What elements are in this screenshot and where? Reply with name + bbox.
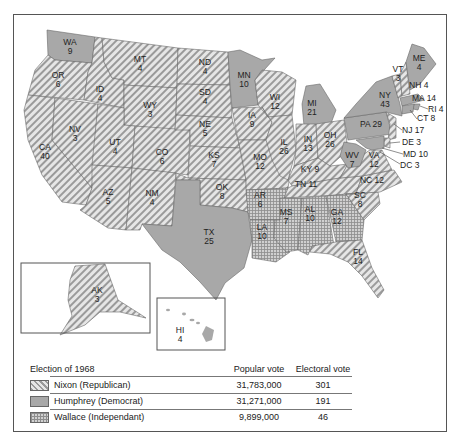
electoral-votes-OK: 8: [220, 191, 225, 201]
electoral-votes-WA: 9: [68, 46, 73, 56]
legend-row-humphrey: Humphrey (Democrat) 31,271,000 191: [30, 393, 352, 409]
electoral-votes-TX: 25: [204, 236, 214, 246]
state-label-DE: DE 3: [402, 137, 421, 147]
candidate-name: Nixon (Republican): [54, 380, 131, 390]
state-AK: [60, 264, 146, 335]
electoral-votes-WV: 7: [350, 159, 355, 169]
electoral-vote: 46: [294, 412, 352, 422]
electoral-votes-AL: 10: [305, 213, 315, 223]
electoral-votes-SC: 8: [358, 199, 363, 209]
popular-vote: 9,899,000: [224, 412, 294, 422]
humphrey-pattern-swatch: [30, 396, 49, 407]
hawaii-inset: [157, 298, 225, 350]
electoral-votes-KS: 7: [212, 159, 217, 169]
electoral-votes-IA: 9: [250, 119, 255, 129]
legend-title: Election of 1968: [30, 364, 224, 374]
electoral-votes-IL: 26: [279, 146, 289, 156]
electoral-votes-VA: 12: [369, 159, 379, 169]
electoral-votes-MI: 21: [307, 107, 317, 117]
nixon-pattern-swatch: [30, 380, 49, 391]
electoral-votes-HI: 4: [178, 334, 183, 344]
legend: Election of 1968 Popular vote Electoral …: [30, 360, 352, 425]
electoral-votes-AR: 6: [258, 199, 263, 209]
state-FL: [310, 240, 384, 298]
electoral-votes-SD: 4: [203, 96, 208, 106]
state-label-NC: NC 12: [360, 175, 384, 185]
electoral-votes-CA: 40: [40, 151, 50, 161]
electoral-votes-WI: 12: [270, 101, 280, 111]
electoral-vote: 301: [294, 380, 352, 390]
electoral-votes-AZ: 5: [106, 196, 111, 206]
electoral-votes-FL: 14: [353, 256, 363, 266]
candidate-name: Wallace (Independant): [54, 412, 144, 422]
electoral-votes-MN: 10: [239, 79, 249, 89]
state-label-PA: PA 29: [360, 119, 382, 129]
state-label-DC: DC 3: [400, 160, 420, 170]
electoral-votes-ID: 4: [98, 93, 103, 103]
electoral-votes-WY: 3: [148, 109, 153, 119]
electoral-votes-GA: 12: [332, 216, 342, 226]
electoral-votes-NY: 43: [380, 99, 390, 109]
state-NY: [344, 76, 402, 118]
popular-vote: 31,271,000: [224, 396, 294, 406]
electoral-votes-CO: 6: [160, 156, 165, 166]
state-label-TN: TN 11: [295, 179, 318, 189]
electoral-votes-NE: 5: [203, 128, 208, 138]
electoral-votes-OH: 26: [325, 139, 335, 149]
electoral-votes-NV: 3: [73, 133, 78, 143]
electoral-votes-MO: 12: [255, 161, 265, 171]
electoral-votes-NM: 4: [150, 197, 155, 207]
wallace-pattern-swatch: [30, 412, 49, 423]
legend-col-electoral: Electoral vote: [294, 364, 352, 374]
electoral-votes-LA: 10: [257, 231, 267, 241]
candidate-name: Humphrey (Democrat): [54, 396, 143, 406]
electoral-votes-UT: 4: [113, 146, 118, 156]
popular-vote: 31,783,000: [224, 380, 294, 390]
state-label-NH: NH 4: [409, 80, 429, 90]
state-label-MD: MD 10: [403, 149, 428, 159]
electoral-votes-VT: 3: [396, 73, 401, 83]
state-label-NJ: NJ 17: [402, 125, 424, 135]
electoral-votes-IN: 13: [303, 143, 313, 153]
legend-col-popular: Popular vote: [224, 364, 294, 374]
legend-row-nixon: Nixon (Republican) 31,783,000 301: [30, 377, 352, 393]
state-label-MA: MA 14: [412, 93, 436, 103]
electoral-vote: 191: [294, 396, 352, 406]
electoral-votes-MT: 4: [138, 63, 143, 73]
electoral-votes-AK: 3: [95, 294, 100, 304]
electoral-votes-OR: 6: [56, 79, 61, 89]
state-label-CT: CT 8: [417, 113, 436, 123]
state-DE: [384, 138, 390, 148]
legend-row-wallace: Wallace (Independant) 9,899,000 46: [30, 409, 352, 425]
electoral-votes-ME: 4: [417, 62, 422, 72]
state-HI: [166, 309, 214, 342]
electoral-votes-ND: 4: [203, 66, 208, 76]
state-label-KY: KY 9: [301, 164, 320, 174]
electoral-votes-MS: 7: [284, 216, 289, 226]
